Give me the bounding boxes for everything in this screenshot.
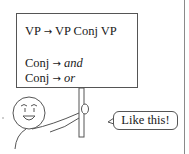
rule-rhs: or <box>64 71 75 85</box>
right-arrow-icon: → <box>52 73 60 84</box>
grammar-rule-conj-or: Conj → or <box>25 71 75 86</box>
right-arrow-icon: → <box>44 26 52 37</box>
hand-icon <box>82 104 89 114</box>
rule-lhs: Conj <box>25 71 49 85</box>
sign-board: VP → VP Conj VP Conj → and Conj → or <box>16 13 138 88</box>
speech-bubble: Like this! <box>113 111 178 130</box>
right-arrow-icon: → <box>52 58 60 69</box>
rule-lhs: Conj <box>25 56 49 70</box>
grammar-rule-vp: VP → VP Conj VP <box>25 24 117 39</box>
head-icon <box>13 97 45 129</box>
rule-lhs: VP <box>25 24 41 38</box>
grammar-rule-conj-and: Conj → and <box>25 56 83 71</box>
speech-bubble-text: Like this! <box>114 112 177 129</box>
rule-rhs: and <box>64 56 83 70</box>
rule-rhs: VP Conj VP <box>55 24 117 38</box>
